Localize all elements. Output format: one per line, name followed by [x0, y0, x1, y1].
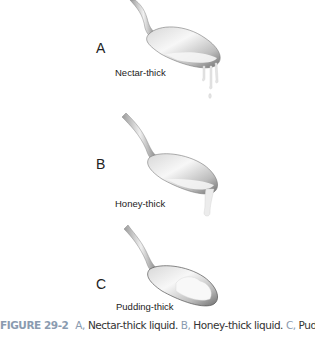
spoon-handle	[122, 113, 158, 161]
figure-number: FIGURE 29-2	[0, 319, 68, 331]
caption-text-b: Honey-thick liquid.	[193, 319, 283, 331]
panel-letter: B	[96, 156, 105, 172]
caption-key-c: C,	[286, 319, 296, 331]
caption-text-c: Pudding-	[299, 319, 315, 331]
spoon-pudding-illustration	[120, 225, 240, 320]
spoon-nectar-illustration	[125, 0, 245, 105]
caption-key-a: A,	[75, 319, 85, 331]
panel-a: A Nectar-thick	[0, 0, 315, 105]
figure-caption: FIGURE 29-2 A, Nectar-thick liquid. B, H…	[0, 319, 315, 331]
caption-key-b: B,	[181, 319, 191, 331]
panel-b: B Honey-thick	[0, 105, 315, 205]
panel-letter: A	[96, 40, 105, 56]
liquid-drips	[202, 63, 218, 98]
spoon-handle	[124, 225, 158, 273]
caption-text-a: Nectar-thick liquid.	[88, 319, 178, 331]
panel-c: C Pudding-thick	[0, 205, 315, 310]
panel-letter: C	[96, 276, 106, 292]
